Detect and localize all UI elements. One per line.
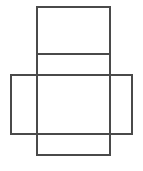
diagram-canvas — [0, 0, 143, 171]
net-face-top-flap — [37, 7, 110, 54]
net-face-left-flap — [11, 75, 37, 134]
net-face-upper-middle — [37, 54, 110, 75]
net-face-center-face — [37, 75, 110, 134]
net-diagram — [0, 0, 143, 171]
net-face-bottom-flap — [37, 134, 110, 155]
net-face-right-flap — [110, 75, 132, 134]
